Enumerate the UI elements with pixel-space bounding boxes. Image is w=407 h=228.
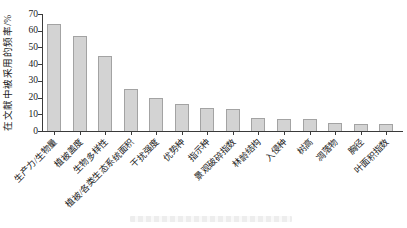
x-axis-line [42, 131, 403, 132]
bar [98, 56, 112, 131]
x-tick-mark [386, 132, 387, 135]
y-tick-mark [38, 31, 42, 32]
x-tick-mark [80, 132, 81, 135]
y-tick-label: 50 [14, 42, 38, 53]
bar [354, 124, 368, 131]
x-tick-mark [182, 132, 183, 135]
x-tick-mark [156, 132, 157, 135]
y-tick-label: 60 [14, 25, 38, 36]
y-tick-mark [38, 64, 42, 65]
bar [124, 89, 138, 131]
bar [251, 118, 265, 131]
bar [200, 108, 214, 131]
x-tick-mark [258, 132, 259, 135]
figure-caption-illegible [130, 216, 292, 222]
y-tick-mark [38, 98, 42, 99]
y-tick-label: 10 [14, 109, 38, 120]
bar [73, 36, 87, 131]
x-tick-mark [284, 132, 285, 135]
y-tick-label: 70 [14, 9, 38, 20]
y-tick-label: 20 [14, 92, 38, 103]
bar [175, 104, 189, 131]
bar [226, 109, 240, 131]
bar [328, 123, 342, 131]
x-tick-mark [335, 132, 336, 135]
y-tick-mark [38, 114, 42, 115]
x-tick-mark [207, 132, 208, 135]
bar [303, 119, 317, 131]
y-tick-mark [38, 47, 42, 48]
y-tick-mark [38, 14, 42, 15]
y-axis-line [42, 14, 43, 131]
bar-chart-figure: 在文献中被采用的频率/% 010203040506070 生产力/生物量植被盖度… [0, 0, 407, 228]
x-tick-mark [105, 132, 106, 135]
y-tick-mark [38, 131, 42, 132]
bar [379, 124, 393, 131]
bar [47, 24, 61, 131]
x-tick-mark [361, 132, 362, 135]
y-tick-label: 30 [14, 75, 38, 86]
y-tick-label: 40 [14, 59, 38, 70]
y-axis-title: 在文献中被采用的频率/% [0, 0, 13, 148]
y-tick-mark [38, 81, 42, 82]
bar [149, 98, 163, 131]
x-tick-mark [233, 132, 234, 135]
y-tick-label: 0 [14, 126, 38, 137]
bar [277, 119, 291, 131]
x-tick-mark [131, 132, 132, 135]
x-tick-mark [54, 132, 55, 135]
x-tick-mark [310, 132, 311, 135]
